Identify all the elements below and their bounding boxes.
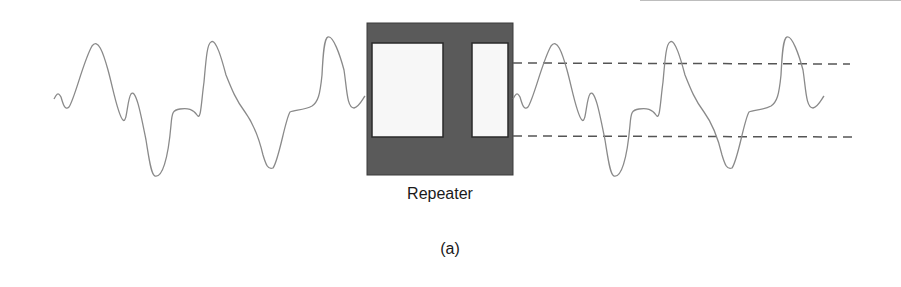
output-waveform: [513, 37, 824, 176]
repeater-receiver-panel: [372, 43, 443, 137]
input-waveform: [54, 37, 365, 176]
lower-threshold-line: [513, 136, 858, 137]
repeater-label: Repeater: [367, 185, 513, 203]
repeater-transmitter-panel: [472, 43, 508, 137]
repeater-box: [367, 23, 513, 175]
figure-caption: (a): [420, 240, 480, 258]
